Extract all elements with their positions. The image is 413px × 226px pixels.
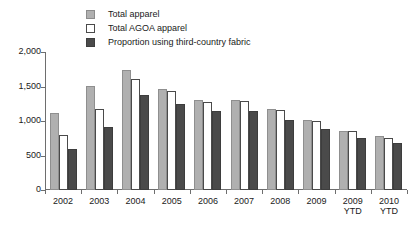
bar-total-agoa-apparel [276,110,285,190]
x-axis-tick-mark [407,190,408,194]
legend-item: Total AGOA apparel [86,22,251,34]
bar-total-agoa-apparel [348,131,357,190]
legend-item-label: Total AGOA apparel [108,23,187,33]
x-axis-tick-mark [298,190,299,194]
x-axis-tick-mark [190,190,191,194]
bar-third-country-fabric [104,127,113,190]
bar-group [194,100,221,190]
x-axis-tick-label: 2010 YTD [371,196,407,216]
x-axis-tick-label: 2006 [190,196,226,206]
bar-third-country-fabric [249,111,258,190]
bar-total-apparel [194,100,203,190]
bar-group [231,100,258,190]
x-axis-tick-label: 2005 [154,196,190,206]
y-axis-tick-mark [41,121,45,122]
bar-third-country-fabric [393,143,402,190]
bar-third-country-fabric [176,104,185,190]
bar-third-country-fabric [140,95,149,190]
third-country-fabric-swatch [86,38,95,47]
bar-group [50,113,77,190]
bar-total-apparel [375,136,384,191]
chart-legend: Total apparelTotal AGOA apparelProportio… [86,8,251,48]
x-axis-tick-mark [371,190,372,194]
x-axis-tick-label: 2009 [298,196,334,206]
y-axis-tick-label: 1,500 [18,81,41,92]
y-axis-tick-mark [41,52,45,53]
bar-group [86,86,113,190]
bar-total-apparel [158,89,167,190]
y-axis-tick-label: 500 [26,150,41,161]
bar-group [267,109,294,190]
y-axis-tick-label: 2,000 [18,46,41,57]
total-agoa-apparel-swatch [86,24,95,33]
bar-third-country-fabric [321,129,330,190]
legend-item: Total apparel [86,8,251,20]
x-axis-tick-mark [335,190,336,194]
bar-total-apparel [86,86,95,190]
bar-third-country-fabric [285,120,294,190]
bar-total-agoa-apparel [95,109,104,190]
legend-item-label: Proportion using third-country fabric [108,37,251,47]
x-axis-tick-label: 2007 [226,196,262,206]
x-axis-tick-mark [226,190,227,194]
bar-third-country-fabric [212,111,221,190]
bar-total-apparel [122,70,131,190]
legend-item-label: Total apparel [108,9,160,19]
y-axis-tick-label: 0 [36,184,41,195]
legend-item: Proportion using third-country fabric [86,36,251,48]
bar-total-apparel [231,100,240,190]
x-axis-tick-mark [117,190,118,194]
x-axis-tick-mark [154,190,155,194]
bar-group [375,136,402,191]
bar-total-agoa-apparel [167,91,176,190]
bar-total-apparel [50,113,59,190]
bar-third-country-fabric [357,138,366,190]
bar-total-agoa-apparel [59,135,68,190]
bar-third-country-fabric [68,149,77,190]
x-axis-tick-mark [45,190,46,194]
bar-total-agoa-apparel [131,79,140,190]
bar-total-apparel [303,120,312,190]
x-axis-tick-mark [262,190,263,194]
x-axis-tick-label: 2004 [117,196,153,206]
bar-chart: Total apparelTotal AGOA apparelProportio… [0,0,413,226]
bar-total-agoa-apparel [312,121,321,190]
bar-group [158,89,185,190]
x-axis-tick-label: 2002 [45,196,81,206]
total-apparel-swatch [86,10,95,19]
x-axis-tick-label: 2003 [81,196,117,206]
x-axis-tick-label: 2008 [262,196,298,206]
bar-group [122,70,149,190]
bar-total-agoa-apparel [240,101,249,190]
y-axis-tick-mark [41,87,45,88]
x-axis-tick-mark [81,190,82,194]
bar-total-agoa-apparel [384,138,393,190]
bar-total-apparel [339,131,348,190]
x-axis-tick-label: 2009 YTD [335,196,371,216]
bar-total-agoa-apparel [203,102,212,190]
y-axis-tick-mark [41,156,45,157]
bar-group [303,120,330,190]
bar-group [339,131,366,190]
y-axis-line [45,52,46,190]
y-axis-tick-label: 1,000 [18,115,41,126]
bar-total-apparel [267,109,276,190]
plot-area: 05001,0001,5002,000200220032004200520062… [45,52,407,190]
